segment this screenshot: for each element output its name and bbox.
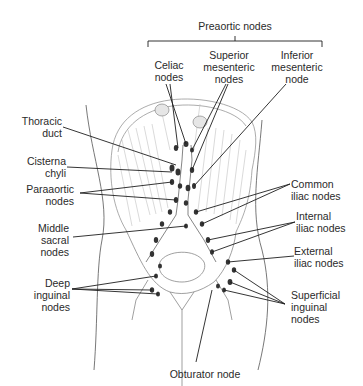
internal-iliac-nodes-label: Internal iliac nodes [296, 210, 362, 234]
lymph-node-diagram: Preaortic nodes Celiac nodes Superior me… [0, 0, 363, 386]
common-iliac-nodes-label: Common iliac nodes [291, 178, 361, 202]
thoracic-duct-label: Thoracic duct [6, 115, 62, 139]
external-iliac-nodes-label: External iliac nodes [294, 245, 360, 269]
obturator-node-label: Obturator node [150, 368, 260, 380]
celiac-nodes-label: Celiac nodes [148, 59, 190, 83]
inferior-mesenteric-node-label: Inferior mesenteric node [268, 49, 326, 85]
paraaortic-nodes-label: Paraaortic nodes [6, 183, 74, 207]
cisterna-chyli-label: Cisterna chyli [6, 155, 66, 179]
superficial-inguinal-nodes-label: Superficial inguinal nodes [291, 289, 361, 325]
deep-inguinal-nodes-label: Deep inguinal nodes [6, 277, 70, 313]
lymph-nodes [150, 141, 236, 297]
middle-sacral-nodes-label: Middle sacral nodes [6, 222, 69, 258]
superior-mesenteric-nodes-label: Superior mesenteric nodes [199, 49, 259, 85]
preaortic-nodes-label: Preaortic nodes [186, 20, 284, 32]
